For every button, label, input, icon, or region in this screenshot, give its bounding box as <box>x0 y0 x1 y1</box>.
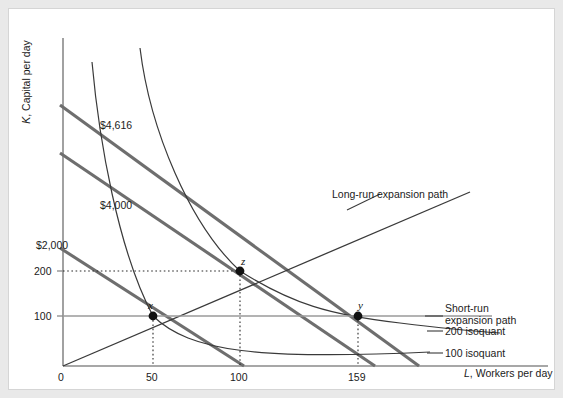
point-label-z: z <box>241 255 245 267</box>
tick-label-x-159: 159 <box>348 371 366 383</box>
isocost-label-4616: $4,616 <box>100 119 132 131</box>
annotation-200-isoquant: 200 isoquant <box>445 325 505 337</box>
x-axis-label: L, Workers per day <box>464 367 553 379</box>
isoquant-isocost-chart <box>0 0 563 398</box>
y-axis-ticks <box>57 271 63 316</box>
y-axis-label-rest: , Capital per day <box>20 40 32 116</box>
long-run-expansion-path-line <box>63 192 470 366</box>
point-y <box>354 312 363 321</box>
point-label-x: x <box>148 299 153 311</box>
expansion-paths <box>63 192 492 366</box>
annotation-long-run-expansion-path: Long-run expansion path <box>332 188 448 200</box>
tick-label-x-50: 50 <box>146 371 158 383</box>
point-label-y: y <box>358 299 363 311</box>
isocost-label-2000: $2,000 <box>36 239 68 251</box>
point-x <box>149 312 158 321</box>
point-z <box>236 267 245 276</box>
x-axis-label-rest: , Workers per day <box>470 367 553 379</box>
annotation-100-isoquant: 100 isoquant <box>445 347 505 359</box>
isocost-label-4000: $4,000 <box>100 199 132 211</box>
isocost-line-4000 <box>60 153 375 366</box>
equilibrium-points <box>149 267 363 321</box>
guide-lines <box>63 271 358 366</box>
tick-label-y-100: 100 <box>34 310 52 322</box>
tick-label-y-200: 200 <box>34 265 52 277</box>
y-axis-label-symbol: K <box>20 117 32 124</box>
annotation-leaders <box>347 194 443 353</box>
annotation-short-run-line1: Short-run <box>445 302 489 314</box>
annotation-short-run-expansion-path: Short-run expansion path <box>445 302 516 327</box>
tick-label-origin: 0 <box>58 371 64 383</box>
figure-page: K, Capital per day L, Workers per day 0 … <box>0 0 563 398</box>
tick-label-x-100: 100 <box>230 371 248 383</box>
y-axis-label: K, Capital per day <box>20 22 32 142</box>
